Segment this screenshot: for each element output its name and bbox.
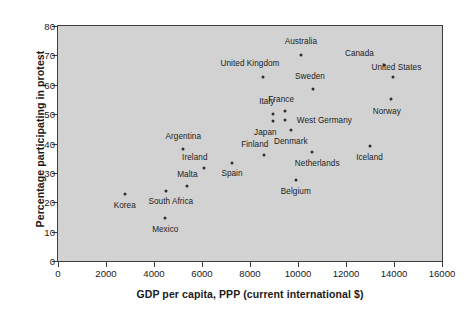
- data-point-label: Iceland: [356, 153, 383, 162]
- data-point-label: United Kingdom: [221, 58, 280, 67]
- data-point: [123, 192, 126, 195]
- data-point: [272, 113, 275, 116]
- data-point-label: Argentina: [166, 131, 202, 140]
- data-point-label: Spain: [221, 169, 242, 178]
- scatter-chart-figure: Percentage participating in protest 0102…: [0, 0, 474, 315]
- x-tick-label: 0: [55, 268, 60, 279]
- x-axis-title: GDP per capita, PPP (current internation…: [57, 288, 443, 300]
- x-tick-label: 8000: [239, 268, 260, 279]
- data-point: [294, 178, 297, 181]
- y-tick-label: 30: [44, 167, 55, 178]
- data-point: [164, 217, 167, 220]
- data-point-label: Netherlands: [295, 158, 340, 167]
- x-tick-mark: [106, 261, 107, 267]
- plot-area: 0102030405060708002000400060008000100001…: [57, 25, 443, 262]
- data-point: [272, 120, 275, 123]
- data-point-label: Finland: [241, 140, 268, 149]
- x-tick-mark: [394, 261, 395, 267]
- data-point-label: Italy: [259, 96, 274, 105]
- x-tick-mark: [250, 261, 251, 267]
- x-tick-label: 16000: [429, 268, 456, 279]
- x-tick-label: 6000: [191, 268, 212, 279]
- data-point: [261, 75, 264, 78]
- x-tick-mark: [442, 261, 443, 267]
- y-tick-label: 10: [44, 226, 55, 237]
- x-tick-mark: [298, 261, 299, 267]
- data-point-label: Malta: [177, 170, 197, 179]
- data-point-label: Canada: [345, 48, 374, 57]
- x-tick-mark: [154, 261, 155, 267]
- data-point: [299, 54, 302, 57]
- y-tick-label: 70: [44, 50, 55, 61]
- y-tick-label: 0: [50, 256, 55, 267]
- x-tick-label: 10000: [285, 268, 312, 279]
- data-point-label: Sweden: [295, 71, 325, 80]
- y-tick-label: 20: [44, 197, 55, 208]
- data-point: [311, 88, 314, 91]
- data-point-label: West Germany: [297, 116, 352, 125]
- data-point-label: Ireland: [182, 153, 207, 162]
- data-point: [182, 147, 185, 150]
- data-point-label: Japan: [254, 127, 277, 136]
- data-point: [368, 144, 371, 147]
- data-point: [390, 98, 393, 101]
- y-tick-label: 80: [44, 21, 55, 32]
- y-tick-label: 40: [44, 138, 55, 149]
- x-tick-mark: [346, 261, 347, 267]
- data-point: [283, 119, 286, 122]
- x-tick-mark: [58, 261, 59, 267]
- data-point-label: Norway: [373, 107, 401, 116]
- data-point: [203, 166, 206, 169]
- data-point-label: Mexico: [152, 224, 178, 233]
- y-tick-label: 60: [44, 79, 55, 90]
- data-point: [310, 151, 313, 154]
- x-tick-mark: [202, 261, 203, 267]
- data-point: [186, 184, 189, 187]
- data-point-label: United States: [371, 62, 421, 71]
- x-tick-label: 4000: [143, 268, 164, 279]
- x-tick-label: 14000: [381, 268, 408, 279]
- data-point-label: Denmark: [274, 136, 308, 145]
- data-point: [391, 76, 394, 79]
- data-point: [283, 110, 286, 113]
- data-point-label: Australia: [285, 36, 317, 45]
- data-point: [165, 189, 168, 192]
- data-point: [262, 153, 265, 156]
- y-tick-label: 50: [44, 109, 55, 120]
- data-point-label: Korea: [114, 201, 136, 210]
- x-tick-label: 2000: [95, 268, 116, 279]
- x-tick-label: 12000: [333, 268, 360, 279]
- data-point-label: South Africa: [148, 196, 193, 205]
- data-point: [231, 161, 234, 164]
- data-point-label: Belgium: [281, 186, 311, 195]
- data-point: [289, 129, 292, 132]
